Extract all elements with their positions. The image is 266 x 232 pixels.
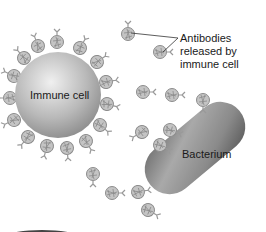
- immune-cell-label: Immune cell: [30, 89, 89, 102]
- antibody-diagram: Antibodies released by immune cell Immun…: [0, 0, 266, 232]
- bacterium-label: Bacterium: [182, 148, 232, 161]
- callout-line-1: Antibodies: [180, 32, 266, 45]
- partial-cell-bottom: [8, 230, 76, 232]
- callout-line-2: released by: [180, 45, 266, 58]
- callout-line-3: immune cell: [180, 58, 266, 71]
- antibodies-callout: Antibodies released by immune cell: [180, 32, 266, 71]
